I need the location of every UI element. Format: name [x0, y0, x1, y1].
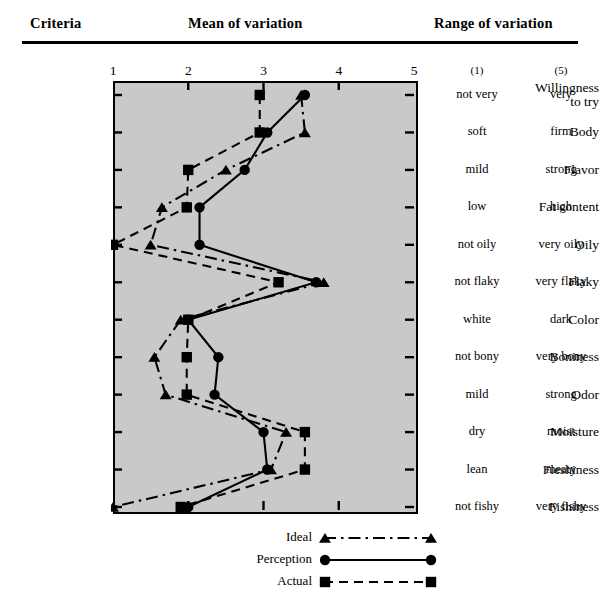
legend-label-perception: Perception	[256, 551, 312, 567]
series-line-perception	[188, 95, 316, 507]
range-high-color: dark	[518, 312, 604, 327]
circle-marker	[194, 202, 204, 212]
triangle-marker	[280, 427, 292, 437]
header-criteria: Criteria	[30, 15, 82, 32]
square-marker	[111, 240, 118, 250]
series-line-ideal	[113, 95, 324, 507]
circle-marker	[311, 277, 321, 287]
x-tick-label-3: 3	[254, 63, 274, 79]
range-high-fleshiness: meaty	[518, 462, 604, 477]
legend-label-actual: Actual	[277, 573, 312, 589]
x-tick-label-5: 5	[404, 63, 424, 79]
range-header-high: (5)	[518, 64, 604, 76]
square-marker	[183, 315, 193, 325]
square-marker	[182, 202, 192, 212]
legend-sample-ideal	[318, 528, 438, 548]
range-high-flaky: very flaky	[518, 274, 604, 289]
square-marker	[273, 277, 283, 287]
circle-marker	[213, 352, 223, 362]
x-tick-label-1: 1	[103, 63, 123, 79]
range-low-flaky: not flaky	[434, 274, 520, 289]
square-marker	[176, 502, 186, 512]
range-high-boniness: very bony	[518, 349, 604, 364]
range-low-flavor: mild	[434, 162, 520, 177]
circle-marker	[239, 165, 249, 175]
square-marker	[300, 427, 310, 437]
range-high-oily: very oily	[518, 237, 604, 252]
range-high-fishiness: very fishy	[518, 499, 604, 514]
circle-marker	[209, 389, 219, 399]
range-low-body: soft	[434, 124, 520, 139]
header-divider-rule	[22, 41, 578, 44]
range-low-fleshiness: lean	[434, 462, 520, 477]
x-tick-label-4: 4	[329, 63, 349, 79]
header-mean-of-variation: Mean of variation	[188, 15, 303, 32]
legend-sample-perception	[318, 550, 438, 570]
circle-marker	[300, 90, 310, 100]
range-high-moisture: moist	[518, 424, 604, 439]
range-low-oily: not oily	[434, 237, 520, 252]
range-high-flavor: strong	[518, 162, 604, 177]
range-high-fat-content: high	[518, 199, 604, 214]
range-low-willingness: not very	[434, 87, 520, 102]
legend-item-ideal: Ideal	[180, 528, 440, 550]
square-marker	[320, 577, 330, 587]
triangle-marker	[156, 202, 168, 212]
header-range-of-variation: Range of variation	[434, 15, 553, 32]
series-line-actual	[113, 95, 305, 507]
range-low-color: white	[434, 312, 520, 327]
square-marker	[255, 90, 265, 100]
plot-series-layer	[111, 79, 418, 514]
square-marker	[255, 127, 265, 137]
range-high-odor: strong	[518, 387, 604, 402]
series-perception	[183, 90, 321, 512]
range-low-boniness: not bony	[434, 349, 520, 364]
range-high-body: firm	[518, 124, 604, 139]
circle-marker	[426, 555, 436, 565]
range-low-fat-content: low	[434, 199, 520, 214]
circle-marker	[320, 555, 330, 565]
square-marker	[183, 165, 193, 175]
legend-sample-actual	[318, 572, 438, 592]
square-marker	[426, 577, 436, 587]
triangle-marker	[220, 165, 232, 175]
legend-item-perception: Perception	[180, 550, 440, 572]
x-tick-label-2: 2	[178, 63, 198, 79]
range-low-moisture: dry	[434, 424, 520, 439]
circle-marker	[194, 240, 204, 250]
range-low-odor: mild	[434, 387, 520, 402]
range-header-low: (1)	[434, 64, 520, 76]
legend-label-ideal: Ideal	[286, 529, 312, 545]
triangle-marker	[160, 390, 172, 400]
triangle-marker	[148, 352, 160, 362]
circle-marker	[258, 427, 268, 437]
square-marker	[300, 464, 310, 474]
legend-item-actual: Actual	[180, 572, 440, 594]
triangle-marker	[299, 127, 311, 137]
square-marker	[182, 389, 192, 399]
triangle-marker	[145, 240, 157, 250]
circle-marker	[262, 464, 272, 474]
legend: IdealPerceptionActual	[180, 528, 440, 600]
range-low-fishiness: not fishy	[434, 499, 520, 514]
range-high-willingness: very	[518, 87, 604, 102]
square-marker	[182, 352, 192, 362]
